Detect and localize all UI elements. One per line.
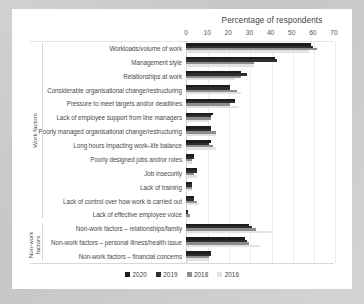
category-label: Lack of effective employee voice xyxy=(93,211,182,218)
bar-group xyxy=(186,138,334,152)
bar-group xyxy=(186,249,334,263)
x-tick-20: 20 xyxy=(225,29,232,36)
legend-item-2018[interactable]: 2018 xyxy=(187,271,209,278)
bar-group xyxy=(186,55,334,69)
bar-2016 xyxy=(186,203,199,205)
legend-item-2020[interactable]: 2020 xyxy=(125,271,147,278)
bar-row: Lack of employee support from line manag… xyxy=(12,110,352,124)
bar-row: Poorly managed organisational change/res… xyxy=(12,124,352,138)
legend-item-2019[interactable]: 2019 xyxy=(156,271,178,278)
bar-row: Relationships at work xyxy=(12,69,352,83)
bar-2016 xyxy=(186,161,192,163)
bar-group xyxy=(186,110,334,124)
bar-row: Lack of training xyxy=(12,180,352,194)
legend-swatch-2018 xyxy=(187,272,192,277)
bar-2016 xyxy=(186,120,209,122)
legend-label-2020: 2020 xyxy=(133,271,147,278)
chart-title: Percentage of respondents xyxy=(192,16,352,25)
bar-group xyxy=(186,194,334,208)
x-tick-40: 40 xyxy=(267,29,274,36)
bar-rows-container: Workloads/volume of workManagement style… xyxy=(12,41,352,263)
category-label: Long hours impacting work–life balance xyxy=(73,142,182,149)
bar-row: Pressure to meet targets and/or deadline… xyxy=(12,97,352,111)
bar-row: Non-work factors – personal illness/heal… xyxy=(12,235,352,249)
legend-label-2019: 2019 xyxy=(163,271,177,278)
plot-bottom-rule xyxy=(30,263,334,264)
legend-label-2018: 2018 xyxy=(194,271,208,278)
image-frame-background: Percentage of respondents 01020304050607… xyxy=(0,0,364,304)
bar-row: Job insecurity xyxy=(12,166,352,180)
bar-2016 xyxy=(186,245,260,247)
legend-label-2016: 2016 xyxy=(225,271,239,278)
x-tick-60: 60 xyxy=(309,29,316,36)
bar-group xyxy=(186,208,334,222)
bar-row: Workloads/volume of work xyxy=(12,41,352,55)
bar-2016 xyxy=(186,258,209,260)
category-label: Workloads/volume of work xyxy=(109,44,182,51)
bar-group xyxy=(186,97,334,111)
bar-2016 xyxy=(186,217,190,219)
bar-group xyxy=(186,124,334,138)
x-tick-0: 0 xyxy=(184,29,188,36)
legend-item-2016[interactable]: 2016 xyxy=(217,271,239,278)
bar-row: Management style xyxy=(12,55,352,69)
group-label: Work factors xyxy=(31,101,38,161)
category-label: Non-work factors – personal illness/heal… xyxy=(51,239,182,246)
category-label: Job insecurity xyxy=(144,169,182,176)
chart-plot-wrapper: Percentage of respondents 01020304050607… xyxy=(12,9,352,289)
chart-card: Percentage of respondents 01020304050607… xyxy=(12,9,352,289)
bar-2016 xyxy=(186,64,254,66)
bar-2016 xyxy=(186,78,235,80)
category-label: Non-work factors – relationships/family xyxy=(76,225,182,232)
category-label: Lack of employee support from line manag… xyxy=(56,114,182,121)
bar-row: Non-work factors – relationships/family xyxy=(12,221,352,235)
bar-group xyxy=(186,180,334,194)
category-label: Non-work factors – financial concerns xyxy=(79,253,182,260)
group-separator xyxy=(42,223,43,261)
category-label: Lack of training xyxy=(140,183,182,190)
x-axis-tick-labels: 010203040506070 xyxy=(12,29,352,41)
bar-row: Non-work factors – financial concerns xyxy=(12,249,352,263)
category-label: Considerable organisational change/restr… xyxy=(47,86,182,93)
x-tick-50: 50 xyxy=(288,29,295,36)
bar-group xyxy=(186,166,334,180)
bar-group xyxy=(186,221,334,235)
bar-group xyxy=(186,41,334,55)
category-label: Poorly managed organisational change/res… xyxy=(39,128,182,135)
bar-2016 xyxy=(186,92,241,94)
category-label: Pressure to meet targets and/or deadline… xyxy=(67,100,182,107)
group-label: Non-work factors xyxy=(27,225,41,265)
bar-2016 xyxy=(186,147,216,149)
bar-2016 xyxy=(186,134,216,136)
x-tick-70: 70 xyxy=(330,29,337,36)
bar-group xyxy=(186,83,334,97)
x-tick-30: 30 xyxy=(246,29,253,36)
bar-row: Lack of effective employee voice xyxy=(12,208,352,222)
legend-swatch-2019 xyxy=(156,272,161,277)
bar-group xyxy=(186,235,334,249)
x-tick-10: 10 xyxy=(203,29,210,36)
category-label: Poorly designed jobs and/or roles xyxy=(90,155,182,162)
bar-2016 xyxy=(186,175,197,177)
category-label: Lack of control over how work is carried… xyxy=(63,197,182,204)
category-label: Management style xyxy=(131,58,182,65)
bar-2016 xyxy=(186,189,192,191)
bar-2016 xyxy=(186,50,309,52)
legend-swatch-2016 xyxy=(217,272,222,277)
bar-2016 xyxy=(186,106,239,108)
bar-group xyxy=(186,69,334,83)
bar-2016 xyxy=(186,231,271,233)
chart-legend: 2020201920182016 xyxy=(12,271,352,278)
bar-group xyxy=(186,152,334,166)
category-label: Relationships at work xyxy=(123,72,182,79)
bar-row: Considerable organisational change/restr… xyxy=(12,83,352,97)
bar-row: Poorly designed jobs and/or roles xyxy=(12,152,352,166)
legend-swatch-2020 xyxy=(125,272,130,277)
group-separator xyxy=(42,43,43,219)
bar-row: Lack of control over how work is carried… xyxy=(12,194,352,208)
bar-row: Long hours impacting work–life balance xyxy=(12,138,352,152)
